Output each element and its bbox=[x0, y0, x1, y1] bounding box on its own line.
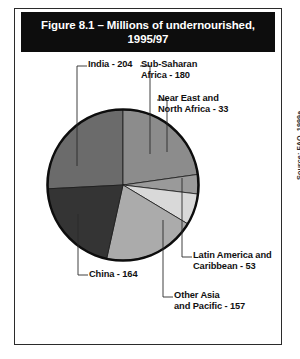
figure-title-bar: Figure 8.1 – Millions of undernourished,… bbox=[21, 12, 275, 52]
callout-other-asia-pacific: Other Asia and Pacific - 157 bbox=[174, 290, 245, 313]
source-note-text: Source: FAO, 1999a bbox=[295, 111, 300, 180]
callout-near-east-north-africa: Near East and North Africa - 33 bbox=[158, 93, 228, 116]
page-title: Figure 8.1 – Millions of undernourished,… bbox=[41, 18, 255, 46]
callout-sub-saharan-africa: Sub-Saharan Africa - 180 bbox=[141, 59, 197, 82]
callout-latin-america-caribbean: Latin America and Caribbean - 53 bbox=[193, 250, 272, 273]
callout-china: China - 164 bbox=[89, 269, 138, 280]
pie-slice-india bbox=[48, 110, 123, 189]
pie-chart-plot-area: India - 204 Sub-Saharan Africa - 180 Nea… bbox=[21, 54, 275, 342]
source-note: Source: FAO, 1999a bbox=[285, 56, 299, 186]
figure-container: Figure 8.1 – Millions of undernourished,… bbox=[0, 0, 300, 359]
callout-india: India - 204 bbox=[88, 59, 132, 70]
